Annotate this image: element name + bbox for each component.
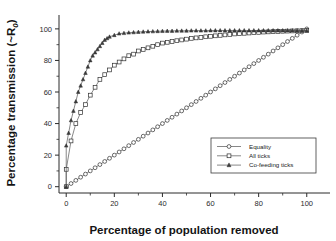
- data-point-marker: [185, 37, 189, 41]
- y-tick-label: 60: [44, 88, 52, 97]
- data-point-marker: [204, 35, 208, 39]
- data-point-marker: [156, 125, 160, 129]
- data-point-marker: [146, 46, 150, 50]
- data-point-marker: [88, 93, 92, 97]
- data-point-marker: [88, 169, 92, 173]
- data-point-marker: [262, 55, 266, 59]
- x-tick-label: 80: [254, 199, 262, 208]
- data-point-marker: [238, 71, 242, 75]
- data-point-marker: [213, 87, 217, 91]
- data-point-marker: [227, 145, 231, 149]
- x-axis-title: Percentage of population removed: [89, 224, 278, 236]
- data-point-marker: [117, 150, 121, 154]
- data-point-marker: [103, 160, 107, 164]
- data-point-marker: [194, 36, 198, 40]
- data-point-marker: [161, 122, 165, 126]
- svg-text:Percentage of population remov: Percentage of population removed: [89, 224, 278, 236]
- data-point-marker: [223, 81, 227, 85]
- data-point-marker: [185, 106, 189, 110]
- data-point-marker: [290, 36, 294, 40]
- data-point-marker: [199, 36, 203, 40]
- data-point-marker: [281, 43, 285, 47]
- x-tick-label: 40: [158, 199, 166, 208]
- data-point-marker: [271, 49, 275, 53]
- data-point-marker: [175, 39, 179, 43]
- x-tick-label: 60: [206, 199, 214, 208]
- data-point-marker: [252, 62, 256, 66]
- x-tick-label: 100: [300, 199, 313, 208]
- data-point-marker: [79, 111, 83, 115]
- data-point-marker: [93, 85, 97, 89]
- data-point-marker: [276, 46, 280, 50]
- transmission-line-chart: 020406080100 020406080100 EqualityAll ti…: [0, 0, 336, 241]
- data-point-marker: [74, 122, 78, 126]
- data-point-marker: [122, 57, 126, 61]
- data-point-marker: [156, 43, 160, 47]
- data-point-marker: [228, 77, 232, 81]
- data-point-marker: [204, 93, 208, 97]
- data-point-marker: [69, 182, 73, 186]
- data-point-marker: [117, 60, 121, 64]
- data-point-marker: [194, 100, 198, 104]
- data-point-marker: [98, 163, 102, 167]
- data-point-marker: [84, 103, 88, 107]
- data-point-marker: [127, 144, 131, 148]
- data-point-marker: [218, 84, 222, 88]
- data-point-marker: [189, 36, 193, 40]
- data-point-marker: [122, 147, 126, 151]
- data-point-marker: [151, 44, 155, 48]
- data-point-marker: [108, 68, 112, 72]
- data-point-marker: [180, 38, 184, 42]
- y-tick-label: 100: [39, 25, 52, 34]
- data-point-marker: [127, 54, 131, 58]
- data-point-marker: [141, 48, 145, 52]
- data-point-marker: [69, 139, 73, 143]
- data-point-marker: [175, 112, 179, 116]
- data-point-marker: [98, 77, 102, 81]
- x-tick-label: 0: [64, 199, 68, 208]
- data-point-marker: [209, 34, 213, 38]
- data-point-marker: [213, 34, 217, 38]
- y-tick-label: 40: [44, 119, 52, 128]
- data-point-marker: [209, 90, 213, 94]
- data-point-marker: [238, 32, 242, 36]
- chart-figure: 020406080100 020406080100 EqualityAll ti…: [0, 0, 336, 241]
- data-point-marker: [295, 33, 299, 37]
- data-point-marker: [227, 154, 231, 158]
- legend-item-label: Equality: [249, 143, 272, 150]
- y-tick-label: 20: [44, 151, 52, 160]
- data-point-marker: [79, 175, 83, 179]
- x-tick-label: 20: [110, 199, 118, 208]
- data-point-marker: [189, 103, 193, 107]
- data-point-marker: [286, 40, 290, 44]
- data-point-marker: [242, 68, 246, 72]
- chart-legend[interactable]: EqualityAll ticksCo-feeding ticks: [211, 138, 316, 173]
- legend-item-label: Co-feeding ticks: [249, 161, 293, 168]
- data-point-marker: [180, 109, 184, 113]
- data-point-marker: [257, 59, 261, 63]
- data-point-marker: [136, 49, 140, 53]
- data-point-marker: [247, 65, 251, 69]
- data-point-marker: [170, 115, 174, 119]
- data-point-marker: [74, 178, 78, 182]
- data-point-marker: [103, 73, 107, 77]
- data-point-marker: [233, 32, 237, 36]
- data-point-marker: [146, 131, 150, 135]
- data-point-marker: [151, 128, 155, 132]
- data-point-marker: [223, 33, 227, 37]
- data-point-marker: [108, 156, 112, 160]
- data-point-marker: [170, 40, 174, 44]
- data-point-marker: [228, 33, 232, 37]
- data-point-marker: [218, 33, 222, 37]
- data-point-marker: [161, 41, 165, 45]
- data-point-marker: [141, 134, 145, 138]
- data-point-marker: [165, 119, 169, 123]
- data-point-marker: [93, 166, 97, 170]
- data-point-marker: [199, 96, 203, 100]
- data-point-marker: [132, 141, 136, 145]
- data-point-marker: [266, 52, 270, 56]
- y-tick-label: 80: [44, 56, 52, 65]
- data-point-marker: [233, 74, 237, 78]
- data-point-marker: [165, 40, 169, 44]
- data-point-marker: [112, 153, 116, 157]
